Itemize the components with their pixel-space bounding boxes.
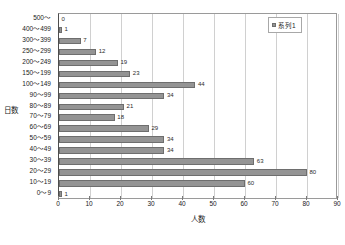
bar-value-label: 7	[83, 35, 86, 46]
bar[interactable]	[59, 114, 115, 120]
x-tick-label: 40	[178, 200, 185, 207]
category-label: 250〜299	[22, 46, 51, 57]
category-label: 200〜249	[22, 57, 51, 68]
bar-value-label: 80	[310, 167, 317, 178]
bar-value-label: 34	[167, 134, 174, 145]
bar-row: 34	[59, 145, 336, 156]
category-label: 150〜199	[22, 68, 51, 79]
bar[interactable]	[59, 60, 118, 66]
bar-value-label: 23	[133, 68, 140, 79]
bar-row: 63	[59, 156, 336, 167]
bar-value-label: 1	[65, 189, 68, 200]
x-tick-label: 20	[116, 200, 123, 207]
bar-row: 80	[59, 167, 336, 178]
bar[interactable]	[59, 180, 245, 186]
category-label: 80〜89	[30, 101, 51, 112]
bar-row: 44	[59, 80, 336, 91]
category-label: 30〜39	[30, 155, 51, 166]
x-tick-label: 90	[333, 200, 340, 207]
bar-row: 12	[59, 47, 336, 58]
bar[interactable]	[59, 82, 195, 88]
category-label: 300〜399	[22, 35, 51, 46]
value-axis-ticks: 0102030405060708090	[58, 200, 337, 212]
bar-value-label: 1	[65, 24, 68, 35]
bar[interactable]	[59, 158, 254, 164]
gridline	[338, 14, 339, 198]
legend[interactable]: 系列1	[268, 17, 302, 33]
bar-value-label: 29	[151, 123, 158, 134]
bar-row: 7	[59, 36, 336, 47]
bar[interactable]	[59, 169, 307, 175]
bar-row: 60	[59, 178, 336, 189]
category-label: 50〜59	[30, 133, 51, 144]
bar-value-label: 18	[117, 112, 124, 123]
category-label: 0〜9	[37, 188, 51, 199]
category-label: 10〜19	[30, 177, 51, 188]
bar-value-label: 19	[120, 57, 127, 68]
x-tick-label: 0	[56, 200, 60, 207]
x-tick-label: 30	[147, 200, 154, 207]
category-label: 70〜79	[30, 111, 51, 122]
bar-value-label: 12	[99, 46, 106, 57]
bar-row: 34	[59, 91, 336, 102]
category-label: 90〜99	[30, 90, 51, 101]
category-label: 40〜49	[30, 144, 51, 155]
bar[interactable]	[59, 71, 130, 77]
x-tick-label: 70	[271, 200, 278, 207]
category-label: 100〜149	[22, 79, 51, 90]
plot-area: 017121923443421182934346380601	[58, 13, 337, 199]
bar[interactable]	[59, 104, 124, 110]
bar-row: 34	[59, 134, 336, 145]
category-label: 500〜	[33, 13, 51, 24]
category-label: 400〜499	[22, 24, 51, 35]
bar[interactable]	[59, 49, 96, 55]
bar[interactable]	[59, 125, 149, 131]
bar[interactable]	[59, 93, 164, 99]
x-tick-label: 50	[209, 200, 216, 207]
bar-value-label: 34	[167, 145, 174, 156]
bar-value-label: 63	[257, 156, 264, 167]
x-tick-label: 60	[240, 200, 247, 207]
bar[interactable]	[59, 38, 81, 44]
bar[interactable]	[59, 147, 164, 153]
x-axis-title: 人数	[58, 213, 337, 224]
bar-row: 21	[59, 102, 336, 113]
bar-value-label: 0	[62, 14, 65, 25]
bar-value-label: 34	[167, 90, 174, 101]
legend-label-series1: 系列1	[278, 20, 296, 30]
bar-row: 19	[59, 58, 336, 69]
bar[interactable]	[59, 191, 62, 197]
x-tick-label: 10	[85, 200, 92, 207]
bar-chart: 017121923443421182934346380601 500〜400〜4…	[0, 0, 345, 245]
x-tick-label: 80	[302, 200, 309, 207]
bar[interactable]	[59, 27, 62, 33]
legend-swatch-series1	[272, 23, 276, 27]
category-label: 60〜69	[30, 122, 51, 133]
bar-row: 29	[59, 123, 336, 134]
bar-value-label: 60	[248, 178, 255, 189]
bar-row: 18	[59, 112, 336, 123]
bar-row: 1	[59, 189, 336, 200]
category-label: 20〜29	[30, 166, 51, 177]
bar-value-label: 21	[127, 101, 134, 112]
bar-value-label: 44	[198, 79, 205, 90]
y-axis-title: 日数	[4, 104, 18, 115]
bar-rows: 017121923443421182934346380601	[59, 14, 336, 198]
bar[interactable]	[59, 136, 164, 142]
bar-row: 23	[59, 69, 336, 80]
